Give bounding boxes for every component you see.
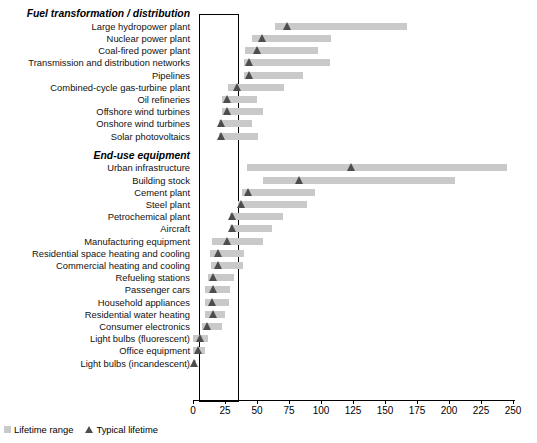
row-label: Cement plant (0, 188, 190, 198)
x-axis-tick-label: 125 (345, 405, 362, 417)
x-axis-tick-label: 200 (441, 405, 458, 417)
lifetime-range-bar (242, 189, 315, 196)
typical-lifetime-marker (228, 224, 236, 232)
row-label: Manufacturing equipment (0, 237, 190, 247)
row-label: Coal-fired power plant (0, 46, 190, 56)
lifetime-range-bar (247, 164, 507, 171)
typical-lifetime-marker (217, 132, 225, 140)
x-axis-tick-label: 150 (377, 405, 394, 417)
row-label: Aircraft (0, 224, 190, 234)
x-axis-line (193, 400, 515, 401)
typical-lifetime-marker (233, 83, 241, 91)
typical-lifetime-marker (223, 107, 231, 115)
x-axis-tick (289, 400, 290, 404)
x-axis-tick (353, 400, 354, 404)
x-axis-tick-label: 25 (219, 405, 230, 417)
row-label: Combined-cycle gas-turbine plant (0, 83, 190, 93)
row-label: Solar photovoltaics (0, 132, 190, 142)
typical-lifetime-marker (203, 322, 211, 330)
x-axis-tick (225, 400, 226, 404)
lifetime-range-bar (238, 201, 307, 208)
typical-lifetime-marker (245, 71, 253, 79)
typical-lifetime-marker (237, 200, 245, 208)
row-label: Petrochemical plant (0, 212, 190, 222)
typical-lifetime-marker (223, 95, 231, 103)
group-heading-2: End-use equipment (0, 150, 190, 161)
typical-lifetime-marker (194, 346, 202, 354)
x-axis-tick-label: 100 (313, 405, 330, 417)
typical-lifetime-marker (209, 310, 217, 318)
x-axis-tick-label: 225 (473, 405, 490, 417)
typical-lifetime-marker (209, 273, 217, 281)
square-swatch-icon (4, 426, 11, 433)
row-label: Light bulbs (fluorescent) (0, 334, 190, 344)
typical-lifetime-marker (228, 212, 236, 220)
typical-lifetime-marker (190, 359, 198, 367)
typical-lifetime-marker (347, 163, 355, 171)
row-label: Pipelines (0, 71, 190, 81)
plot-area (193, 8, 537, 400)
x-axis-tick (481, 400, 482, 404)
row-label: Residential space heating and cooling (0, 249, 190, 259)
x-axis-tick (193, 400, 194, 404)
legend-item-lifetime-range: Lifetime range (4, 424, 73, 435)
x-axis-tick (417, 400, 418, 404)
legend-label-lifetime-range: Lifetime range (14, 424, 73, 435)
x-axis-tick-label: 75 (283, 405, 294, 417)
row-label: Urban infrastructure (0, 163, 190, 173)
plot-border-box (199, 14, 239, 402)
row-label: Passenger cars (0, 285, 190, 295)
row-label: Consumer electronics (0, 322, 190, 332)
row-label: Offshore wind turbines (0, 107, 190, 117)
row-label: Oil refineries (0, 95, 190, 105)
x-axis-tick (321, 400, 322, 404)
typical-lifetime-marker (245, 58, 253, 66)
typical-lifetime-marker (196, 334, 204, 342)
legend-label-typical-lifetime: Typical lifetime (96, 424, 157, 435)
typical-lifetime-marker (223, 237, 231, 245)
x-axis-tick (385, 400, 386, 404)
triangle-swatch-icon (85, 426, 93, 433)
typical-lifetime-marker (214, 249, 222, 257)
typical-lifetime-marker (244, 188, 252, 196)
x-axis-tick-label: 0 (190, 405, 196, 417)
x-axis-tick-label: 175 (409, 405, 426, 417)
x-axis-tick (257, 400, 258, 404)
row-label: Residential water heating (0, 310, 190, 320)
x-axis-tick (449, 400, 450, 404)
lifetime-range-bar (244, 59, 330, 66)
typical-lifetime-marker (214, 261, 222, 269)
lifetime-range-bar (230, 225, 272, 232)
lifetime-range-bar (244, 72, 303, 79)
typical-lifetime-marker (283, 22, 291, 30)
row-label: Office equipment (0, 346, 190, 356)
row-label: Nuclear power plant (0, 34, 190, 44)
row-label: Household appliances (0, 298, 190, 308)
row-label: Transmission and distribution networks (0, 58, 190, 68)
row-label: Large hydropower plant (0, 22, 190, 32)
x-axis-tick (513, 400, 514, 404)
typical-lifetime-marker (258, 34, 266, 42)
row-label: Steel plant (0, 200, 190, 210)
x-axis-tick-label: 50 (251, 405, 262, 417)
typical-lifetime-marker (295, 176, 303, 184)
x-axis-tick-label: 250 (505, 405, 522, 417)
row-label: Commercial heating and cooling (0, 261, 190, 271)
category-label-column: Fuel transformation / distributionLarge … (0, 0, 190, 400)
lifetime-range-bar (230, 213, 282, 220)
row-label: Building stock (0, 176, 190, 186)
lifetime-range-chart: Fuel transformation / distributionLarge … (0, 0, 537, 443)
row-label: Onshore wind turbines (0, 119, 190, 129)
lifetime-range-bar (275, 23, 407, 30)
group-heading-1: Fuel transformation / distribution (0, 8, 190, 19)
row-label: Refueling stations (0, 273, 190, 283)
typical-lifetime-marker (217, 119, 225, 127)
chart-legend: Lifetime range Typical lifetime (4, 424, 158, 435)
lifetime-range-bar (212, 238, 263, 245)
legend-item-typical-lifetime: Typical lifetime (85, 424, 157, 435)
typical-lifetime-marker (208, 298, 216, 306)
lifetime-range-bar (263, 177, 455, 184)
row-label: Light bulbs (incandescent) (0, 359, 190, 369)
typical-lifetime-marker (253, 46, 261, 54)
typical-lifetime-marker (209, 285, 217, 293)
